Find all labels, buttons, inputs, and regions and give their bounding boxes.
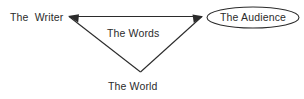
node-label-writer: The Writer	[10, 12, 63, 23]
node-label-audience: The Audience	[220, 12, 286, 23]
node-label-world: The World	[108, 81, 158, 92]
edge-writer-world	[69, 17, 141, 73]
diagram-canvas: The Writer The Words The World The Audie…	[0, 0, 304, 99]
arrowhead-at-writer-icon	[68, 14, 79, 22]
arrowhead-at-audience-icon	[193, 15, 204, 23]
node-label-words: The Words	[107, 28, 160, 39]
edge-world-audience	[141, 17, 203, 73]
